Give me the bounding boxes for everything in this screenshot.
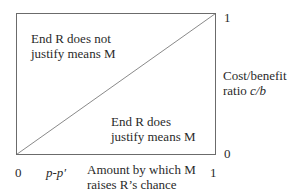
x-axis-label-line2: raises R’s chance bbox=[87, 177, 177, 189]
y-axis-label-line2: ratio c/b bbox=[223, 83, 266, 98]
x-axis-origin-tick: 0 bbox=[15, 165, 22, 180]
region-label-not-justify-line1: End R does not bbox=[31, 31, 111, 46]
x-axis-end-tick: 1 bbox=[210, 165, 217, 180]
region-label-justify-line2: justify means M bbox=[111, 129, 196, 144]
region-label-justify-line1: End R does bbox=[111, 114, 171, 129]
region-label-not-justify-line2: justify means M bbox=[31, 46, 116, 61]
y-axis-label-prefix: ratio bbox=[223, 83, 250, 98]
x-axis-label-line1: Amount by which M bbox=[87, 162, 196, 177]
y-axis-top-tick: 1 bbox=[224, 10, 231, 25]
x-axis-marker: p-p′ bbox=[46, 165, 66, 180]
y-axis-label-variable: c/b bbox=[250, 83, 266, 98]
y-axis-label-line1: Cost/benefit bbox=[223, 68, 287, 83]
y-axis-bottom-tick: 0 bbox=[224, 146, 231, 161]
